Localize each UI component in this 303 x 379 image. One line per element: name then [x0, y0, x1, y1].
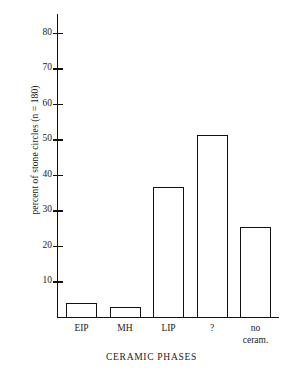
x-axis-tick-label: no ceram.	[231, 323, 280, 346]
y-axis-tick-label: 60	[43, 97, 53, 110]
bar	[240, 227, 271, 317]
y-axis-tick-mark	[53, 175, 63, 176]
x-axis-tick-label: ?	[188, 323, 237, 335]
bar	[197, 135, 228, 317]
y-axis-title: percent of stone circles (n = 180)	[28, 0, 42, 300]
y-axis-tick-mark	[53, 281, 63, 282]
y-axis-line	[57, 14, 58, 318]
x-axis-tick-label: EIP	[57, 323, 106, 335]
y-axis-tick-mark	[53, 68, 63, 69]
bar	[66, 303, 97, 317]
y-axis-tick-label: 30	[43, 203, 53, 216]
y-axis-tick-label: 50	[43, 132, 53, 145]
y-axis-tick-mark	[53, 33, 63, 34]
y-axis-tick-label: 40	[43, 168, 53, 181]
y-axis-tick-label: 80	[43, 26, 53, 39]
y-axis-tick-label: 20	[43, 239, 53, 252]
bar	[153, 187, 184, 317]
x-axis-tick-label: MH	[101, 323, 150, 335]
bar-chart-figure: percent of stone circles (n = 180) 10203…	[0, 0, 303, 379]
y-axis-tick-mark	[53, 246, 63, 247]
y-axis-tick-label: 10	[43, 274, 53, 287]
y-axis-tick-label: 70	[43, 61, 53, 74]
y-axis-tick-mark	[53, 104, 63, 105]
plot-area: 1020304050607080 EIPMHLIP?no ceram.	[57, 14, 279, 318]
y-axis-tick-mark	[53, 210, 63, 211]
bar	[110, 307, 141, 318]
x-axis-title: CERAMIC PHASES	[0, 352, 303, 362]
y-axis-tick-mark	[53, 139, 63, 140]
x-axis-tick-label: LIP	[144, 323, 193, 335]
